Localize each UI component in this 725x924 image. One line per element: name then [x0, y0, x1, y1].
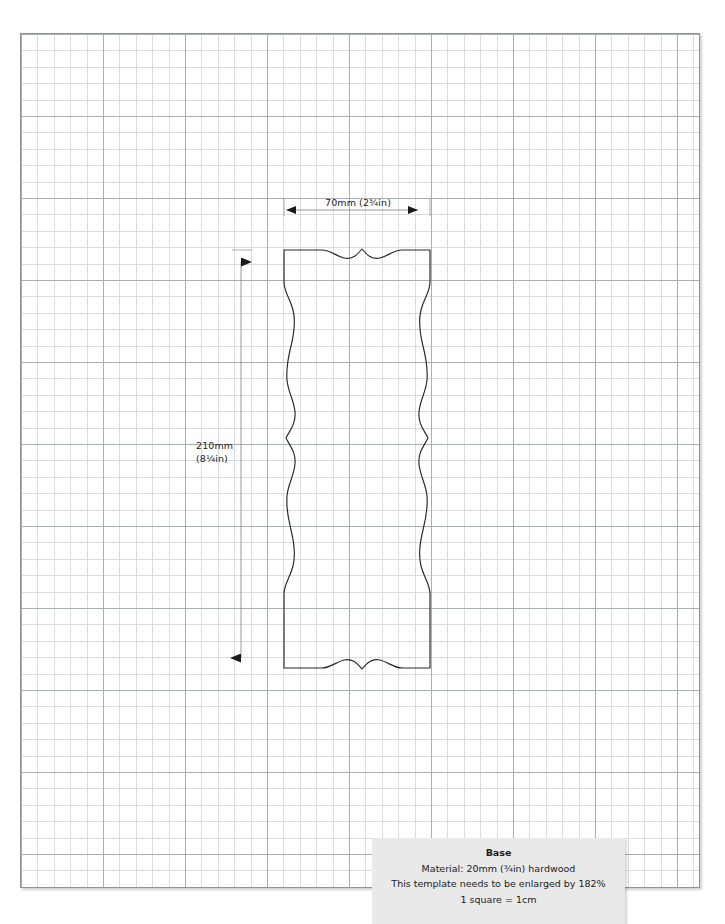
caption-panel: Base Material: 20mm (¾in) hardwood This … — [372, 838, 625, 924]
caption-enlargement: This template needs to be enlarged by 18… — [372, 876, 625, 892]
caption-scale: 1 square = 1cm — [372, 892, 625, 908]
dimension-width-label: 70mm (2¾in) — [325, 197, 391, 208]
dimension-height-label-mm: 210mm — [196, 439, 233, 452]
caption-material: Material: 20mm (¾in) hardwood — [372, 861, 625, 877]
technical-drawing — [0, 0, 725, 924]
template-page: 70mm (2¾in) 210mm (8¼in) Base Material: … — [0, 0, 725, 924]
dimension-height — [232, 250, 252, 658]
dimension-height-label-in: (8¼in) — [196, 452, 233, 465]
caption-title: Base — [372, 845, 625, 861]
base-template-outline — [284, 249, 430, 669]
dimension-height-label: 210mm (8¼in) — [196, 439, 233, 465]
